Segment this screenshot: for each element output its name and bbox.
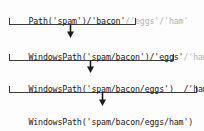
code-segment-active-2: WindowsPath('spam/bacon')/'eggs' <box>28 52 183 62</box>
code-segment-active-1: Path('spam')/'bacon' <box>28 16 125 26</box>
code-segment-pending-2: /'ham' <box>183 52 204 62</box>
path-concatenation-diagram: Path('spam')/'bacon'/'eggs'/'ham' Window… <box>0 0 204 131</box>
code-segment-active-4: WindowsPath('spam/bacon/eggs/ham') <box>28 117 193 127</box>
code-line-step-1: Path('spam')/'bacon'/'eggs'/'ham' <box>9 6 188 36</box>
code-line-step-2: WindowsPath('spam/bacon')/'eggs'/'ham' <box>9 42 204 72</box>
code-segment-pending-1: /'eggs'/'ham' <box>125 16 188 26</box>
code-line-step-3: WindowsPath('spam/bacon/eggs') /'ham' <box>9 74 204 104</box>
code-segment-active-3: WindowsPath('spam/bacon/eggs') /'ham' <box>28 84 204 94</box>
code-line-step-4: WindowsPath('spam/bacon/eggs/ham') <box>9 107 193 131</box>
